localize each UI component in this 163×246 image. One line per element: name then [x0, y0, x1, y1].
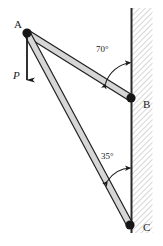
joint-b-pin	[126, 93, 135, 102]
label-node-a: A	[14, 19, 22, 30]
wall-hatching	[132, 8, 153, 233]
diagram-canvas	[0, 0, 163, 246]
label-angle-35: 35°	[101, 152, 114, 161]
joint-a-pin	[22, 28, 31, 37]
joint-c-pin	[125, 220, 134, 229]
truss-members	[27, 33, 131, 225]
wall-support	[132, 8, 153, 233]
angle-arc-35	[108, 168, 131, 181]
truss-diagram: A B C P 70° 35°	[0, 0, 163, 246]
label-force-p: P	[13, 70, 20, 81]
angle-arc-35-path	[108, 168, 131, 181]
label-angle-70: 70°	[96, 45, 109, 54]
label-node-b: B	[143, 99, 150, 110]
label-node-c: C	[143, 222, 150, 233]
